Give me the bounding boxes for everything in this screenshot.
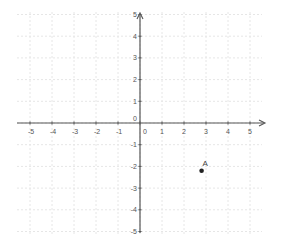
x-tick-label: -3 [72, 128, 78, 135]
y-tick-label: 5 [133, 11, 137, 18]
y-tick-label: 4 [133, 33, 137, 40]
x-tick-label: 1 [160, 128, 164, 135]
y-tick-label: -4 [131, 206, 137, 213]
x-tick-label: 5 [248, 128, 252, 135]
x-tick-label: 2 [182, 128, 186, 135]
y-tick-label: 1 [133, 98, 137, 105]
y-tick-label: 0 [133, 115, 137, 122]
y-tick-label: -1 [131, 141, 137, 148]
coordinate-plane: -5-4-3-2-1012345543210-1-2-3-4-5 A [0, 0, 283, 236]
x-tick-label: 3 [204, 128, 208, 135]
point-A[interactable] [199, 168, 204, 173]
y-tick-label: 3 [133, 54, 137, 61]
y-tick-label: 2 [133, 76, 137, 83]
x-tick-label: 0 [143, 128, 147, 135]
points: A [199, 159, 208, 173]
x-tick-label: 4 [226, 128, 230, 135]
x-tick-label: -1 [116, 128, 122, 135]
point-label: A [203, 159, 209, 168]
x-tick-label: -4 [50, 128, 56, 135]
y-tick-label: -5 [131, 228, 137, 235]
y-tick-label: -2 [131, 163, 137, 170]
y-tick-label: -3 [131, 185, 137, 192]
x-tick-label: -2 [94, 128, 100, 135]
x-tick-label: -5 [28, 128, 34, 135]
